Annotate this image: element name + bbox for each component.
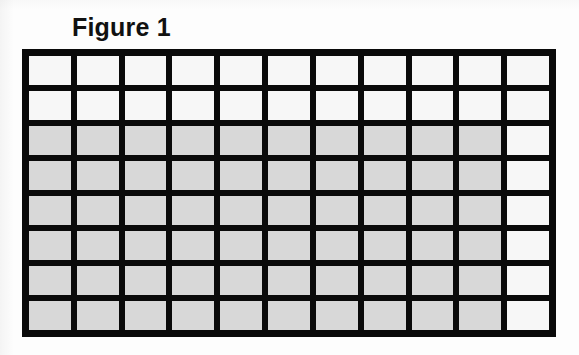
grid-cell (268, 126, 310, 155)
grid-cell (77, 161, 119, 190)
grid-cell (316, 91, 358, 120)
grid-cell (268, 161, 310, 190)
grid-cell (220, 91, 262, 120)
grid-cell (125, 301, 167, 330)
grid-cell (268, 196, 310, 225)
grid-cell (268, 231, 310, 260)
grid-cell (316, 56, 358, 85)
grid-cell (125, 231, 167, 260)
grid-cell (29, 196, 71, 225)
grid-cell (172, 301, 214, 330)
grid-cell (125, 266, 167, 295)
grid-cell (220, 126, 262, 155)
grid-border-frame (22, 49, 556, 337)
grid-cell (29, 91, 71, 120)
grid-cell (125, 56, 167, 85)
grid-cell (172, 266, 214, 295)
grid-cell (77, 196, 119, 225)
grid-cell (316, 301, 358, 330)
grid-cell (268, 91, 310, 120)
grid-cell (172, 231, 214, 260)
grid-cell (268, 56, 310, 85)
grid-cell (77, 301, 119, 330)
grid-cell (364, 266, 406, 295)
grid-cell (172, 161, 214, 190)
grid-cell (316, 231, 358, 260)
grid-cell (29, 266, 71, 295)
grid-cell (364, 301, 406, 330)
grid-cell (77, 126, 119, 155)
cell-grid (29, 56, 549, 330)
grid-cell (364, 161, 406, 190)
grid-cell (316, 126, 358, 155)
grid-cell (29, 301, 71, 330)
grid-cell (316, 196, 358, 225)
grid-cell (220, 161, 262, 190)
grid-cell (77, 266, 119, 295)
grid-cell (507, 196, 549, 225)
grid-cell (364, 126, 406, 155)
grid-cell (268, 301, 310, 330)
grid-cell (125, 161, 167, 190)
grid-cell (459, 196, 501, 225)
grid-cell (172, 196, 214, 225)
grid-cell (412, 196, 454, 225)
grid-cell (412, 56, 454, 85)
grid-cell (459, 266, 501, 295)
grid-cell (507, 56, 549, 85)
grid-cell (220, 266, 262, 295)
grid-cell (172, 91, 214, 120)
grid-cell (29, 231, 71, 260)
grid-cell (412, 91, 454, 120)
grid-cell (364, 56, 406, 85)
grid-cell (268, 266, 310, 295)
grid-cell (316, 266, 358, 295)
grid-cell (459, 161, 501, 190)
grid-cell (507, 161, 549, 190)
grid-cell (125, 196, 167, 225)
figure-title: Figure 1 (72, 14, 171, 42)
grid-cell (459, 126, 501, 155)
grid-cell (412, 301, 454, 330)
grid-cell (364, 231, 406, 260)
grid-cell (172, 126, 214, 155)
grid-cell (412, 161, 454, 190)
grid-cell (77, 91, 119, 120)
grid-cell (459, 56, 501, 85)
grid-cell (507, 126, 549, 155)
grid-cell (412, 126, 454, 155)
grid-cell (220, 196, 262, 225)
grid-cell (459, 231, 501, 260)
grid-cell (507, 266, 549, 295)
grid-cell (364, 196, 406, 225)
grid-cell (29, 161, 71, 190)
grid-cell (77, 231, 119, 260)
grid-cell (507, 91, 549, 120)
grid-cell (412, 231, 454, 260)
grid-cell (220, 56, 262, 85)
grid-cell (507, 301, 549, 330)
grid-cell (220, 231, 262, 260)
grid-cell (172, 56, 214, 85)
grid-cell (220, 301, 262, 330)
grid-cell (507, 231, 549, 260)
grid-cell (29, 56, 71, 85)
grid-cell (459, 301, 501, 330)
grid-cell (316, 161, 358, 190)
grid-cell (77, 56, 119, 85)
grid-cell (364, 91, 406, 120)
grid-cell (459, 91, 501, 120)
grid-cell (125, 91, 167, 120)
grid-cell (29, 126, 71, 155)
grid-cell (412, 266, 454, 295)
grid-cell (125, 126, 167, 155)
figure-container: Figure 1 (0, 0, 579, 355)
